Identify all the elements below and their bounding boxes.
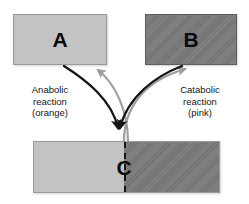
box-b: B	[145, 14, 237, 65]
caption-catabolic-line1: Catabolic	[162, 84, 238, 96]
caption-anabolic-line3: (orange)	[14, 107, 86, 119]
caption-catabolic-line3: (pink)	[162, 107, 238, 119]
box-c-dark-half	[124, 142, 219, 192]
caption-anabolic-line2: reaction	[14, 96, 86, 108]
caption-anabolic-line1: Anabolic	[14, 84, 86, 96]
box-b-label: B	[183, 29, 198, 50]
caption-catabolic-line2: reaction	[162, 96, 238, 108]
caption-anabolic: Anabolic reaction (orange)	[14, 84, 86, 119]
diagram-canvas: A B C Anabolic reaction (orange) Catabol…	[0, 0, 249, 204]
box-c: C	[33, 141, 220, 193]
caption-catabolic: Catabolic reaction (pink)	[162, 84, 238, 119]
arrow-c-to-a	[98, 70, 128, 141]
box-c-light-half	[34, 142, 124, 192]
box-a-label: A	[52, 29, 67, 50]
box-a: A	[13, 14, 107, 65]
box-c-label: C	[116, 157, 131, 178]
